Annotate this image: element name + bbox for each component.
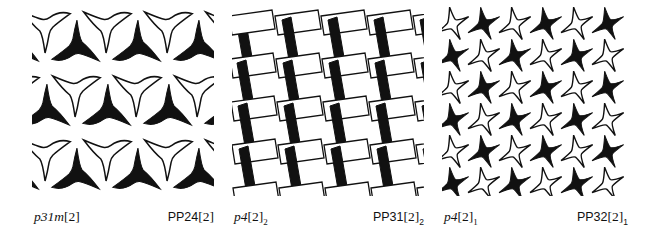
permutation-group-label-3: PP32[2]1 bbox=[577, 208, 628, 231]
pattern-panel-parallelogram-weave bbox=[232, 6, 424, 196]
permutation-group-base-3: PP32 bbox=[577, 210, 608, 224]
tiling-figure: p31m[2] PP24[2] p4[2]2 PP31[2]2 p4[2]1 P… bbox=[0, 0, 650, 248]
permutation-group-label-1: PP24[2] bbox=[168, 208, 214, 231]
permutation-group-bracket-3: [2] bbox=[608, 209, 624, 224]
symmetry-group-base-1: p31m bbox=[34, 209, 64, 224]
symmetry-group-bracket-3: [2] bbox=[458, 209, 474, 224]
panel-1-canvas bbox=[32, 6, 214, 196]
panel-2-canvas bbox=[232, 6, 424, 196]
symmetry-group-bracket-1: [2] bbox=[64, 209, 80, 224]
panel-3-canvas bbox=[442, 6, 628, 196]
permutation-group-base-1: PP24 bbox=[168, 210, 199, 224]
pattern-panel-four-pointed-star bbox=[442, 6, 628, 196]
permutation-group-base-2: PP31 bbox=[373, 210, 404, 224]
pattern-panel-three-pointed-star bbox=[32, 6, 214, 196]
permutation-group-subscript-3: 1 bbox=[623, 217, 628, 227]
caption-panel-1: p31m[2] PP24[2] bbox=[34, 208, 214, 228]
symmetry-group-base-2: p4 bbox=[234, 209, 248, 224]
symmetry-group-bracket-2: [2] bbox=[248, 209, 264, 224]
permutation-group-label-2: PP31[2]2 bbox=[373, 208, 424, 231]
symmetry-group-subscript-3: 1 bbox=[473, 217, 478, 227]
permutation-group-subscript-2: 2 bbox=[419, 217, 424, 227]
permutation-group-bracket-2: [2] bbox=[404, 209, 420, 224]
symmetry-group-label-2: p4[2]2 bbox=[234, 208, 268, 231]
symmetry-group-subscript-2: 2 bbox=[263, 217, 268, 227]
symmetry-group-label-1: p31m[2] bbox=[34, 208, 80, 231]
permutation-group-bracket-1: [2] bbox=[198, 209, 214, 224]
caption-panel-3: p4[2]1 PP32[2]1 bbox=[444, 208, 628, 228]
symmetry-group-label-3: p4[2]1 bbox=[444, 208, 478, 231]
caption-panel-2: p4[2]2 PP31[2]2 bbox=[234, 208, 424, 228]
symmetry-group-base-3: p4 bbox=[444, 209, 458, 224]
